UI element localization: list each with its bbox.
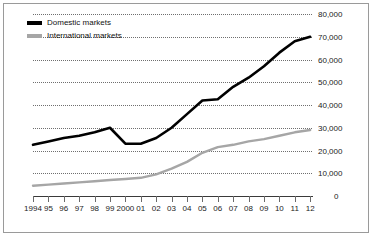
x-axis-tick — [79, 196, 80, 202]
y-axis-tick-label: 50,000 — [318, 78, 342, 87]
x-axis-tick-label: 98 — [90, 204, 99, 213]
x-axis-tick-label: 03 — [167, 204, 176, 213]
x-axis-tick-label: 2000 — [116, 204, 134, 213]
chart-legend: Domestic markets International markets — [27, 16, 122, 42]
x-axis-tick-label: 99 — [106, 204, 115, 213]
chart-figure: 010,00020,00030,00040,00050,00060,00070,… — [0, 0, 373, 237]
x-axis-tick — [187, 196, 188, 202]
x-axis-tick-label: 05 — [198, 204, 207, 213]
x-axis-tick-label: 96 — [59, 204, 68, 213]
x-axis-tick — [202, 196, 203, 202]
x-axis-tick — [141, 196, 142, 202]
x-axis-tick — [310, 196, 311, 202]
x-axis-tick — [249, 196, 250, 202]
x-axis-tick-label: 02 — [152, 204, 161, 213]
x-axis-tick-label: 97 — [75, 204, 84, 213]
x-axis-tick-label: 12 — [306, 204, 315, 213]
y-axis-tick-label: 20,000 — [318, 146, 342, 155]
x-axis-tick-label: 01 — [136, 204, 145, 213]
x-axis-tick-label: 09 — [260, 204, 269, 213]
legend-label-international: International markets — [47, 31, 122, 40]
y-axis-tick-label: 60,000 — [318, 55, 342, 64]
x-axis-tick — [156, 196, 157, 202]
x-axis-tick — [110, 196, 111, 202]
x-axis-line — [33, 196, 313, 197]
x-axis-tick — [295, 196, 296, 202]
x-axis-tick-label: 95 — [44, 204, 53, 213]
x-axis-tick — [218, 196, 219, 202]
y-axis-tick-label: 0 — [334, 192, 338, 201]
y-axis-tick-label: 10,000 — [318, 169, 342, 178]
x-axis-tick-label: 07 — [229, 204, 238, 213]
legend-swatch-domestic — [27, 21, 42, 25]
x-axis-tick — [95, 196, 96, 202]
x-axis-tick — [172, 196, 173, 202]
x-axis-tick — [279, 196, 280, 202]
x-axis-tick-label: 1994 — [24, 204, 42, 213]
x-axis-tick — [125, 196, 126, 202]
legend-label-domestic: Domestic markets — [47, 18, 111, 27]
x-axis-tick — [233, 196, 234, 202]
x-axis-tick — [264, 196, 265, 202]
x-axis-tick — [64, 196, 65, 202]
x-axis-tick-label: 10 — [275, 204, 284, 213]
y-axis-tick-label: 40,000 — [318, 101, 342, 110]
legend-item-international: International markets — [27, 29, 122, 42]
y-axis-tick-label: 70,000 — [318, 32, 342, 41]
x-axis-tick-label: 06 — [213, 204, 222, 213]
x-axis-tick-label: 08 — [244, 204, 253, 213]
series-line-domestic — [33, 37, 310, 145]
legend-item-domestic: Domestic markets — [27, 16, 122, 29]
x-axis-tick-label: 04 — [183, 204, 192, 213]
y-axis-tick-label: 30,000 — [318, 123, 342, 132]
legend-swatch-international — [27, 34, 42, 38]
y-axis-tick-label: 80,000 — [318, 10, 342, 19]
x-axis-tick — [48, 196, 49, 202]
x-axis-tick-label: 11 — [291, 204, 299, 213]
series-line-international — [33, 130, 310, 186]
x-axis-tick — [33, 196, 34, 202]
